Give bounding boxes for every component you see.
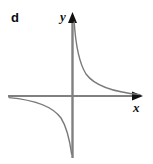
hyperbola-branch-negative (9, 98, 72, 154)
panel-label-d: d (11, 11, 19, 24)
hyperbola-branch-positive (74, 22, 140, 95)
y-axis-arrowhead-icon (68, 12, 77, 23)
plot-canvas (0, 0, 153, 164)
hyperbola-figure: d y x (0, 0, 153, 164)
x-axis-label: x (133, 101, 140, 114)
y-axis-label: y (60, 10, 66, 23)
